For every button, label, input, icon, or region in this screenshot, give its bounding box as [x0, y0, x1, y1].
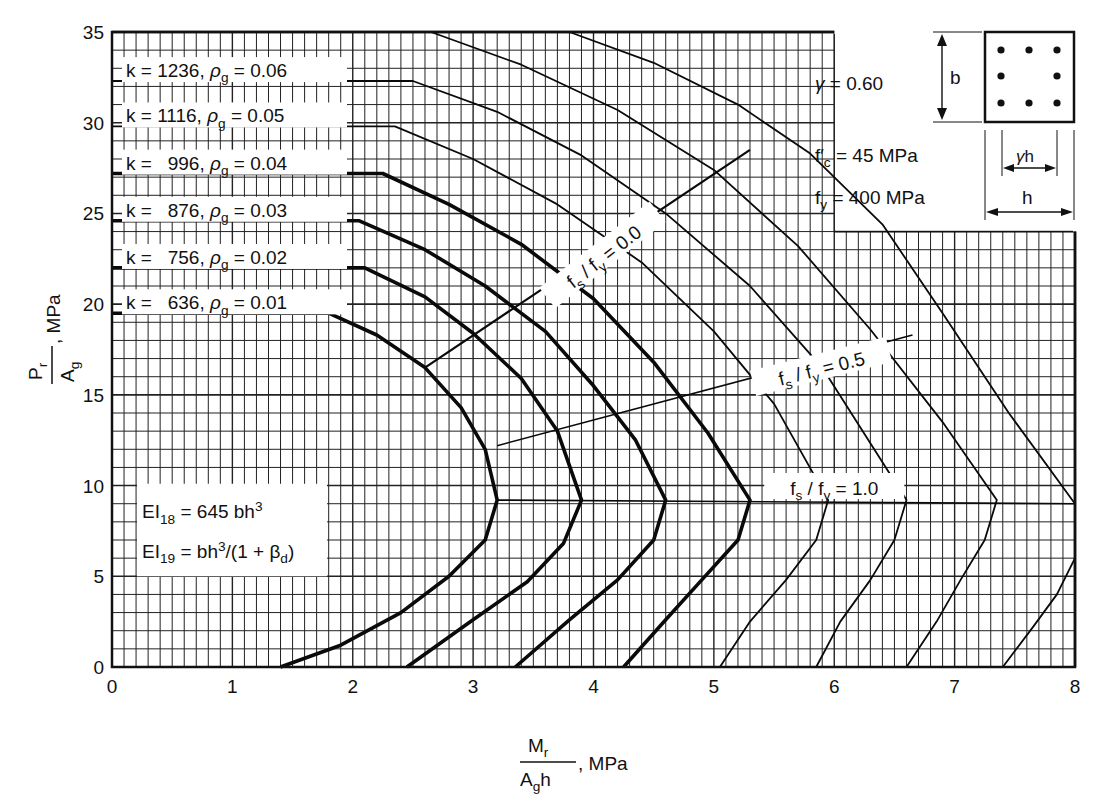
stress-line-label: fs​ / fy​ = 1.0	[764, 473, 904, 503]
x-axis-label-numerator: Mr​	[528, 735, 549, 760]
dim-h-label: h	[1022, 187, 1033, 208]
series-label: k = 1236, ρg​ = 0.06	[122, 57, 347, 85]
y-tick-label: 0	[93, 657, 104, 678]
y-axis-label: Pr​Ag​, MPa	[25, 294, 82, 384]
x-tick-label: 2	[347, 676, 358, 697]
y-tick-label: 30	[83, 113, 104, 134]
y-axis-label-numerator: Pr​	[25, 362, 50, 380]
y-tick-label: 25	[83, 203, 104, 224]
y-tick-label: 20	[83, 294, 104, 315]
series-labels: k = 1236, ρg​ = 0.06k = 1116, ρg​ = 0.05…	[122, 57, 347, 318]
x-tick-label: 3	[468, 676, 479, 697]
y-axis-label-denominator: Ag​	[57, 362, 82, 382]
y-tick-label: 15	[83, 385, 104, 406]
stress-line-label: fs​ / fy​ = 0.0	[539, 202, 668, 312]
x-tick-label: 4	[588, 676, 599, 697]
rebar-dot	[1053, 46, 1060, 53]
rebar-dot	[1025, 99, 1032, 106]
rebar-dot	[1053, 99, 1060, 106]
y-tick-label: 35	[83, 22, 104, 43]
x-tick-label: 7	[949, 676, 960, 697]
y-tick-label: 10	[83, 476, 104, 497]
stress-line-label: fs​ / fy​ = 0.5	[750, 337, 893, 400]
x-tick-label: 5	[709, 676, 720, 697]
interaction-diagram: 01234567805101520253035 k = 1236, ρg​ = …	[0, 0, 1097, 812]
x-tick-label: 0	[107, 676, 118, 697]
y-axis-label-unit: , MPa	[43, 294, 64, 344]
rebar-dot	[997, 99, 1004, 106]
ei-formula-box: EI18​ = 645 bh3​EI19​ = bh3​/(1 + βd​)	[137, 484, 327, 577]
x-tick-label: 8	[1070, 676, 1081, 697]
gamma-value: γ = 0.60	[815, 73, 883, 94]
dim-gamma-h-label: γh	[1016, 147, 1034, 166]
x-axis-label-unit: , MPa	[578, 753, 628, 774]
series-label: k = 756, ρg​ = 0.02	[122, 244, 347, 272]
series-label: k = 996, ρg​ = 0.04	[122, 150, 347, 178]
x-tick-label: 1	[227, 676, 238, 697]
x-tick-label: 6	[829, 676, 840, 697]
dim-b-label: b	[950, 67, 961, 88]
rebar-dot	[997, 72, 1004, 79]
x-axis-label-denominator: Ag​h	[520, 769, 551, 794]
series-label: k = 1116, ρg​ = 0.05	[122, 102, 347, 130]
rebar-dot	[1025, 46, 1032, 53]
y-tick-label: 5	[93, 566, 104, 587]
rebar-dot	[1053, 72, 1060, 79]
series-label: k = 636, ρg​ = 0.01	[122, 289, 347, 317]
series-label: k = 876, ρg​ = 0.03	[122, 197, 347, 225]
rebar-dot	[997, 46, 1004, 53]
